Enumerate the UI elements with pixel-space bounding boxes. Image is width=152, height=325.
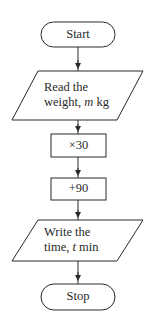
write-label: Write the time, t min [30, 225, 126, 255]
read-line1: Read the [44, 80, 88, 94]
add-label: +90 [51, 181, 106, 196]
read-line2-suffix: kg [93, 95, 109, 109]
write-line2-suffix: min [76, 240, 99, 254]
write-line2-prefix: time, [44, 240, 72, 254]
multiply-label: ×30 [51, 138, 106, 153]
read-label: Read the weight, m kg [30, 80, 126, 110]
start-label: Start [41, 27, 115, 42]
read-variable-m: m [84, 95, 93, 109]
read-line2-prefix: weight, [44, 95, 84, 109]
flowchart-canvas [0, 0, 152, 325]
stop-label: Stop [41, 289, 115, 304]
write-line1: Write the [44, 225, 90, 239]
